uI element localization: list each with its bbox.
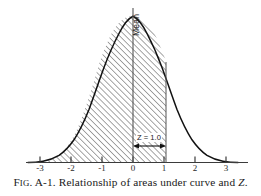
x-tick-label-2: 2	[187, 163, 203, 173]
x-tick-label-neg2: -2	[63, 163, 79, 173]
figure-container: -3 -2 -1 0 1 2 3 Mean Z = 1.0 FIG. A-1. …	[0, 0, 261, 196]
z-value-label: Z = 1.0	[136, 133, 162, 142]
caption-fig-smallcaps: IG	[20, 178, 30, 188]
caption-main-text: . A-1. Relationship of areas under curve…	[29, 176, 238, 188]
x-tick-label-0: 0	[125, 163, 141, 173]
normal-curve-plot: -3 -2 -1 0 1 2 3 Mean Z = 1.0	[0, 0, 261, 176]
x-tick-label-3: 3	[218, 163, 234, 173]
caption-period: .	[245, 176, 248, 188]
x-tick-label-1: 1	[156, 163, 172, 173]
x-tick-label-neg3: -3	[32, 163, 48, 173]
mean-label: Mean	[131, 14, 141, 36]
figure-caption: FIG. A-1. Relationship of areas under cu…	[0, 176, 261, 196]
x-tick-label-neg1: -1	[94, 163, 110, 173]
